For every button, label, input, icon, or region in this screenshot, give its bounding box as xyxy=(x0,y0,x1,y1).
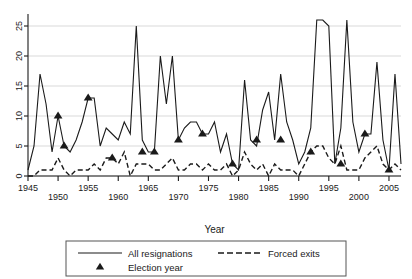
x-axis-tick-label: 1975 xyxy=(198,183,218,193)
y-axis-tick-label: 10 xyxy=(14,111,24,121)
x-axis-tick-label: 1970 xyxy=(168,192,188,202)
x-axis-tick-label: 1990 xyxy=(289,192,309,202)
x-axis-tick-label: 1950 xyxy=(48,192,68,202)
legend-label-all-resignations: All resignations xyxy=(128,248,193,259)
x-axis-tick-label: 1955 xyxy=(78,183,98,193)
y-axis-tick-label: 0 xyxy=(14,173,24,178)
x-axis-tick-label: 1995 xyxy=(319,183,339,193)
resignations-line-chart: 0510152025194519501955196019651970197519… xyxy=(0,0,412,279)
y-axis-tick-label: 20 xyxy=(14,51,24,61)
plot-background xyxy=(28,14,401,176)
x-axis: 1945195019551960196519701975198019851990… xyxy=(18,176,401,202)
x-axis-title: Year xyxy=(204,224,225,235)
x-axis-tick-label: 2000 xyxy=(349,192,369,202)
x-axis-tick-label: 1965 xyxy=(138,183,158,193)
legend-border xyxy=(66,241,346,276)
y-axis: 0510152025 xyxy=(14,14,28,179)
legend-label-forced-exits: Forced exits xyxy=(268,248,320,259)
x-axis-tick-label: 1980 xyxy=(229,192,249,202)
legend: All resignationsForced exitsElection yea… xyxy=(66,241,346,276)
y-axis-tick-label: 15 xyxy=(14,81,24,91)
legend-label-election-year: Election year xyxy=(128,262,183,273)
x-axis-tick-label: 1960 xyxy=(108,192,128,202)
x-axis-tick-label: 2005 xyxy=(379,183,399,193)
x-axis-tick-label: 1945 xyxy=(18,183,38,193)
chart-figure: 0510152025194519501955196019651970197519… xyxy=(0,0,412,279)
x-axis-tick-label: 1985 xyxy=(259,183,279,193)
y-axis-tick-label: 25 xyxy=(14,21,24,31)
y-axis-tick-label: 5 xyxy=(14,143,24,148)
